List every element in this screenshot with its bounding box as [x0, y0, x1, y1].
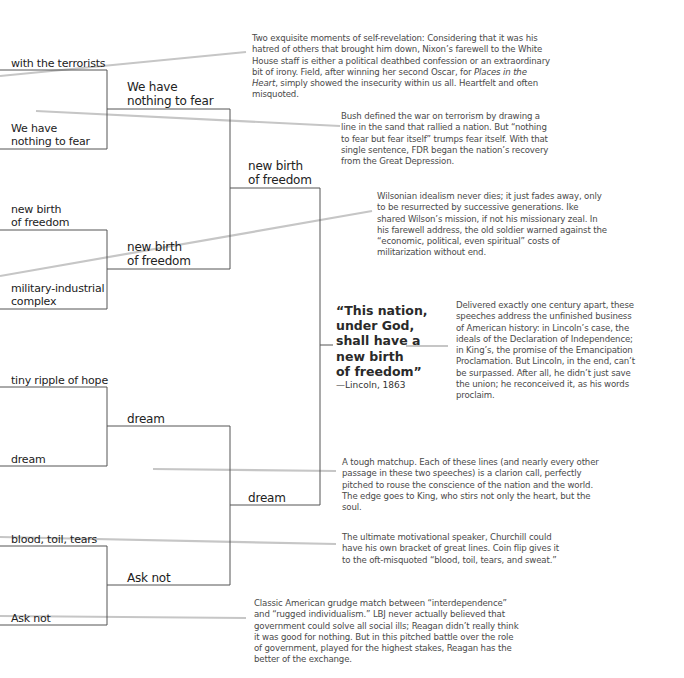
note-wilson-ike: Wilsonian idealism never dies; it just f… — [377, 191, 607, 259]
winner-attribution: —Lincoln, 1863 — [336, 380, 406, 390]
note-churchill: The ultimate motivational speaker, Churc… — [342, 532, 562, 566]
winner-quote: “This nation, under God, shall have a ne… — [336, 303, 428, 379]
note-bush-fdr: Bush defined the war on terrorism by dra… — [341, 111, 556, 167]
round1-entry-military-industrial: military-industrial complex — [11, 282, 104, 308]
round2-entry-ask-not: Ask not — [127, 571, 170, 585]
round1-entry-ask-not: Ask not — [11, 612, 51, 625]
round1-entry-nothing-to-fear: We have nothing to fear — [11, 122, 90, 148]
round3-entry-dream: dream — [248, 491, 286, 505]
round2-entry-dream: dream — [127, 412, 165, 426]
round2-entry-new-birth: new birth of freedom — [127, 240, 191, 268]
round1-entry-terrorists: with the terrorists — [11, 57, 105, 70]
round1-entry-new-birth: new birth of freedom — [11, 203, 69, 229]
round1-entry-blood-toil-tears: blood, toil, tears — [11, 533, 97, 546]
note-nixon-field: Two exquisite moments of self-revelation… — [252, 33, 552, 101]
round2-entry-nothing-to-fear: We have nothing to fear — [127, 80, 213, 108]
round3-entry-new-birth: new birth of freedom — [248, 159, 312, 187]
note-rfk-king: A tough matchup. Each of these lines (an… — [342, 457, 607, 513]
note-jfk-reagan: Classic American grudge match between “i… — [254, 598, 522, 666]
note-lincoln-king: Delivered exactly one century apart, the… — [456, 300, 636, 402]
round1-entry-dream: dream — [11, 453, 46, 466]
round1-entry-tiny-ripple: tiny ripple of hope — [11, 374, 108, 387]
